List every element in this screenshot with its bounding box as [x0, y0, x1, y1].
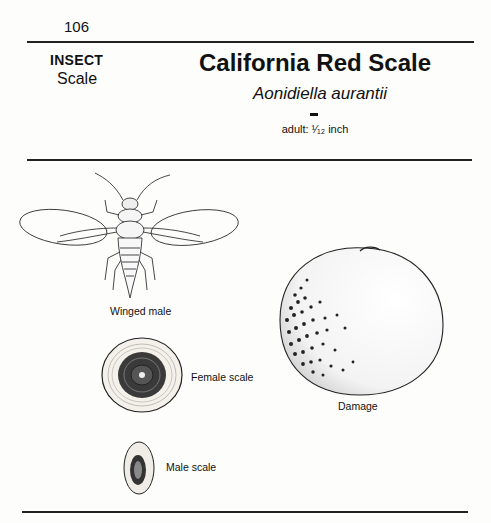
caption-winged-male: Winged male — [110, 305, 171, 317]
caption-damage: Damage — [338, 400, 378, 412]
female-scale-illustration — [100, 335, 185, 415]
subcategory-label: Scale — [57, 70, 97, 88]
winged-male-illustration — [45, 170, 215, 305]
scientific-name: Aonidiella aurantii — [220, 84, 420, 104]
page-number: 106 — [64, 18, 89, 35]
top-rule — [27, 41, 474, 43]
damage-illustration — [265, 240, 445, 400]
size-label: adult: ¹⁄₁₂ inch — [255, 123, 375, 135]
caption-male-scale: Male scale — [166, 461, 216, 473]
caption-female-scale: Female scale — [191, 371, 253, 383]
size-scale-bar — [310, 113, 318, 116]
category-label: INSECT — [50, 52, 103, 68]
middle-rule — [27, 159, 472, 161]
bottom-rule — [22, 511, 468, 513]
page-title: California Red Scale — [195, 49, 435, 77]
male-scale-illustration — [122, 440, 156, 496]
